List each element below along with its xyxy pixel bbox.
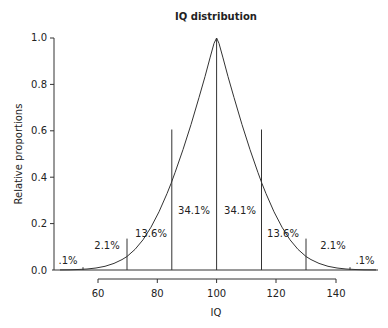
svg-text:1.0: 1.0	[31, 32, 47, 43]
y-tick-labels: 1.0 0.8 0.6 0.4 0.2 0.0	[31, 32, 47, 276]
chart-title: IQ distribution	[175, 11, 257, 22]
svg-text:120: 120	[266, 288, 285, 299]
y-axis-label: Relative proportions	[13, 104, 24, 205]
svg-text:140: 140	[326, 288, 345, 299]
svg-text:34.1%: 34.1%	[178, 205, 210, 216]
svg-text:0.4: 0.4	[31, 172, 47, 183]
svg-text:0.6: 0.6	[31, 125, 47, 136]
svg-text:2.1%: 2.1%	[320, 240, 345, 251]
svg-text:60: 60	[92, 288, 105, 299]
svg-text:13.6%: 13.6%	[135, 228, 167, 239]
svg-text:0.0: 0.0	[31, 265, 47, 276]
svg-text:13.6%: 13.6%	[267, 228, 299, 239]
sd-dividers	[83, 38, 350, 270]
x-axis	[98, 279, 336, 283]
normal-curve	[60, 38, 376, 270]
svg-text:80: 80	[151, 288, 164, 299]
svg-text:100: 100	[207, 288, 226, 299]
svg-text:2.1%: 2.1%	[94, 240, 119, 251]
svg-text:.1%: .1%	[58, 255, 77, 266]
svg-text:.1%: .1%	[355, 255, 374, 266]
iq-distribution-chart: IQ distribution 1.0 0.8 0.6 0.4 0.2 0.0 …	[0, 0, 388, 328]
svg-text:0.2: 0.2	[31, 218, 47, 229]
svg-text:34.1%: 34.1%	[224, 205, 256, 216]
y-axis	[50, 38, 54, 270]
x-tick-labels: 60 80 100 120 140	[92, 288, 346, 299]
x-axis-label: IQ	[211, 307, 222, 318]
svg-text:0.8: 0.8	[31, 79, 47, 90]
